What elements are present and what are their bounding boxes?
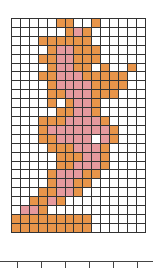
grid-cell[interactable]: [119, 162, 128, 171]
grid-cell[interactable]: [39, 197, 48, 206]
grid-cell[interactable]: [119, 19, 128, 28]
grid-cell[interactable]: [83, 206, 92, 215]
grid-cell[interactable]: [128, 99, 137, 108]
grid-cell[interactable]: [74, 206, 83, 215]
grid-cell[interactable]: [39, 108, 48, 117]
grid-cell[interactable]: [74, 108, 83, 117]
grid-cell[interactable]: [30, 197, 39, 206]
grid-cell[interactable]: [74, 215, 83, 224]
grid-cell[interactable]: [30, 117, 39, 126]
grid-cell[interactable]: [48, 64, 57, 73]
grid-cell[interactable]: [12, 153, 21, 162]
grid-cell[interactable]: [57, 46, 66, 55]
grid-cell[interactable]: [128, 126, 137, 135]
grid-cell[interactable]: [12, 37, 21, 46]
grid-cell[interactable]: [137, 117, 146, 126]
grid-cell[interactable]: [83, 81, 92, 90]
grid-cell[interactable]: [57, 64, 66, 73]
grid-cell[interactable]: [21, 224, 30, 233]
grid-cell[interactable]: [21, 72, 30, 81]
grid-cell[interactable]: [74, 179, 83, 188]
grid-cell[interactable]: [57, 81, 66, 90]
grid-cell[interactable]: [39, 46, 48, 55]
grid-cell[interactable]: [39, 144, 48, 153]
grid-cell[interactable]: [110, 126, 119, 135]
grid-cell[interactable]: [101, 179, 110, 188]
grid-cell[interactable]: [48, 19, 57, 28]
grid-cell[interactable]: [92, 144, 101, 153]
grid-cell[interactable]: [74, 135, 83, 144]
grid-cell[interactable]: [137, 99, 146, 108]
grid-cell[interactable]: [110, 179, 119, 188]
grid-cell[interactable]: [21, 108, 30, 117]
grid-cell[interactable]: [119, 64, 128, 73]
grid-cell[interactable]: [21, 144, 30, 153]
grid-cell[interactable]: [83, 162, 92, 171]
grid-cell[interactable]: [48, 90, 57, 99]
grid-cell[interactable]: [74, 19, 83, 28]
grid-cell[interactable]: [119, 46, 128, 55]
grid-cell[interactable]: [137, 135, 146, 144]
grid-cell[interactable]: [21, 188, 30, 197]
grid-cell[interactable]: [39, 99, 48, 108]
grid-cell[interactable]: [66, 46, 75, 55]
grid-cell[interactable]: [57, 162, 66, 171]
grid-cell[interactable]: [101, 64, 110, 73]
grid-cell[interactable]: [101, 108, 110, 117]
grid-cell[interactable]: [83, 197, 92, 206]
grid-cell[interactable]: [137, 126, 146, 135]
grid-cell[interactable]: [12, 179, 21, 188]
grid-cell[interactable]: [12, 197, 21, 206]
grid-cell[interactable]: [12, 81, 21, 90]
grid-cell[interactable]: [92, 188, 101, 197]
grid-cell[interactable]: [39, 90, 48, 99]
grid-cell[interactable]: [128, 72, 137, 81]
grid-cell[interactable]: [119, 224, 128, 233]
grid-cell[interactable]: [119, 55, 128, 64]
grid-cell[interactable]: [101, 206, 110, 215]
grid-cell[interactable]: [21, 170, 30, 179]
grid-cell[interactable]: [83, 64, 92, 73]
grid-cell[interactable]: [110, 72, 119, 81]
grid-cell[interactable]: [48, 46, 57, 55]
grid-cell[interactable]: [101, 99, 110, 108]
grid-cell[interactable]: [110, 153, 119, 162]
grid-cell[interactable]: [21, 179, 30, 188]
grid-cell[interactable]: [101, 72, 110, 81]
grid-cell[interactable]: [137, 215, 146, 224]
grid-cell[interactable]: [128, 144, 137, 153]
grid-cell[interactable]: [66, 215, 75, 224]
grid-cell[interactable]: [128, 108, 137, 117]
grid-cell[interactable]: [101, 117, 110, 126]
grid-cell[interactable]: [74, 72, 83, 81]
grid-cell[interactable]: [128, 90, 137, 99]
grid-cell[interactable]: [12, 162, 21, 171]
grid-cell[interactable]: [119, 108, 128, 117]
grid-cell[interactable]: [12, 55, 21, 64]
grid-cell[interactable]: [39, 215, 48, 224]
grid-cell[interactable]: [66, 117, 75, 126]
grid-cell[interactable]: [21, 19, 30, 28]
grid-cell[interactable]: [39, 188, 48, 197]
grid-cell[interactable]: [12, 90, 21, 99]
grid-cell[interactable]: [92, 153, 101, 162]
grid-cell[interactable]: [74, 170, 83, 179]
grid-cell[interactable]: [83, 135, 92, 144]
grid-cell[interactable]: [83, 153, 92, 162]
grid-cell[interactable]: [101, 55, 110, 64]
grid-cell[interactable]: [128, 162, 137, 171]
grid-cell[interactable]: [66, 37, 75, 46]
grid-cell[interactable]: [83, 55, 92, 64]
grid-cell[interactable]: [12, 188, 21, 197]
grid-cell[interactable]: [92, 81, 101, 90]
grid-cell[interactable]: [128, 224, 137, 233]
grid-cell[interactable]: [83, 37, 92, 46]
grid-cell[interactable]: [119, 135, 128, 144]
grid-cell[interactable]: [137, 108, 146, 117]
grid-cell[interactable]: [128, 28, 137, 37]
grid-cell[interactable]: [101, 162, 110, 171]
grid-cell[interactable]: [92, 224, 101, 233]
grid-cell[interactable]: [39, 81, 48, 90]
grid-cell[interactable]: [128, 170, 137, 179]
grid-cell[interactable]: [137, 188, 146, 197]
